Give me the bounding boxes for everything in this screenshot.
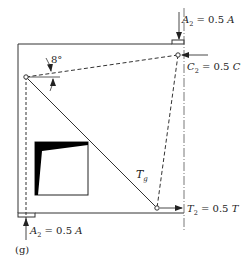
top-strut [26,55,178,77]
deformation-inset-icon [35,142,88,195]
node-bottom-right [155,206,159,210]
tie-label: Tg [136,168,148,183]
right-strut [157,55,178,208]
angle-arrow-bottom [50,79,53,91]
strut-and-tie-diagram: 8° Tg A2 = 0.5 A C2 = 0.5 C T2 = 0.5 T A… [0,0,246,269]
top-axial-label: A2 = 0.5 A [181,14,234,28]
bottom-axial-label: A2 = 0.5 A [29,225,82,239]
node-top-right [176,53,180,57]
angle-label: 8° [51,54,62,65]
compression-label: C2 = 0.5 C [187,61,241,75]
node-left [24,75,28,79]
top-bearing-plate [172,40,184,44]
tension-label: T2 = 0.5 T [187,203,240,217]
panel-label: (g) [15,244,29,255]
